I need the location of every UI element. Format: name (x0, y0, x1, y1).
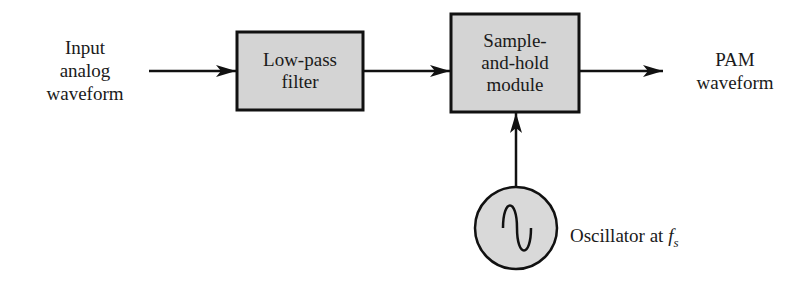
low-pass-filter-label: Low-pass filter (237, 32, 363, 110)
sample-and-hold-label: Sample- and-hold module (451, 14, 579, 112)
input-label: Input analog waveform (30, 36, 140, 105)
output-label: PAM waveform (680, 48, 790, 94)
oscillator-label: Oscillator at fs (570, 224, 678, 254)
